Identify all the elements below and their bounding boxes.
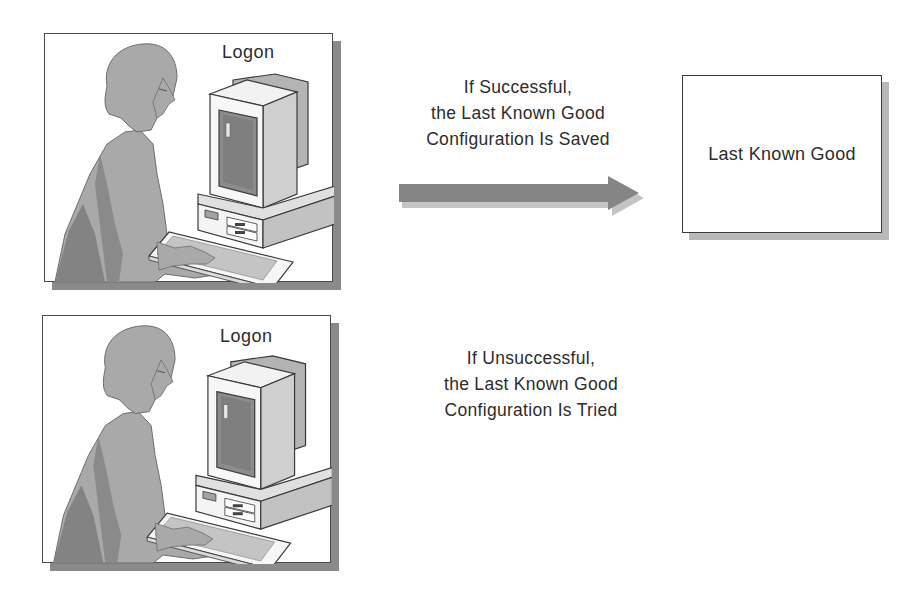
failure-caption-line-1: If Unsuccessful, (411, 345, 651, 371)
success-caption-line-3: Configuration Is Saved (398, 126, 638, 152)
failure-caption-line-2: the Last Known Good (411, 371, 651, 397)
logon-label: Logon (222, 42, 275, 63)
last-known-good-label: Last Known Good (708, 144, 856, 165)
person-at-computer-icon (43, 316, 332, 564)
failure-caption-line-3: Configuration Is Tried (411, 397, 651, 423)
person-at-computer-icon (45, 34, 334, 283)
logon-panel-failure: Logon (42, 315, 331, 563)
success-caption: If Successful, the Last Known Good Confi… (398, 74, 638, 152)
success-caption-line-1: If Successful, (398, 74, 638, 100)
last-known-good-box: Last Known Good (682, 75, 882, 233)
arrow-right-icon (396, 172, 646, 218)
failure-caption: If Unsuccessful, the Last Known Good Con… (411, 345, 651, 423)
logon-label: Logon (220, 326, 273, 347)
success-caption-line-2: the Last Known Good (398, 100, 638, 126)
logon-panel-success: Logon (44, 33, 333, 282)
